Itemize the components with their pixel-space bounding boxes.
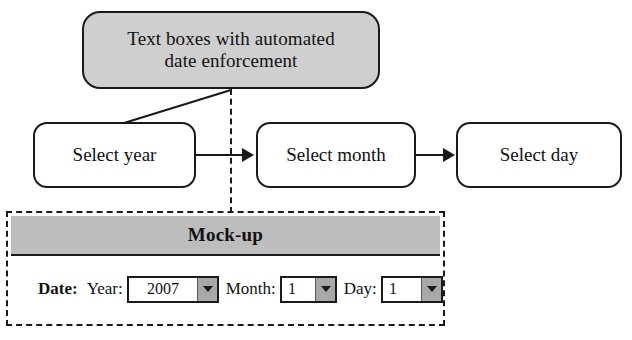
flow-step-select-day[interactable]: Select day	[456, 122, 622, 188]
callout-to-mockup-dashed-line	[230, 89, 232, 213]
day-dropdown-value: 1	[383, 278, 421, 301]
flow-arrow-2-shaft	[416, 154, 446, 156]
arrow-right-icon	[443, 148, 455, 162]
flow-step-label: Select day	[500, 144, 579, 166]
chevron-down-icon	[203, 286, 213, 292]
date-label: Date:	[38, 279, 78, 299]
year-label: Year:	[87, 279, 123, 299]
arrow-right-icon	[242, 148, 254, 162]
chevron-down-icon	[427, 286, 437, 292]
day-dropdown-toggle[interactable]	[421, 278, 441, 301]
mockup-form-row: Date: Year: 2007 Month: 1 Day:	[8, 256, 443, 322]
callout-line-1: Text boxes with automated	[127, 28, 334, 50]
month-dropdown-value: 1	[282, 278, 315, 301]
diagram-canvas: Text boxes with automated date enforceme…	[0, 0, 632, 340]
callout-line-2: date enforcement	[127, 50, 334, 72]
flow-step-select-month[interactable]: Select month	[256, 122, 416, 188]
flow-step-label: Select year	[73, 144, 157, 166]
chevron-down-icon	[321, 286, 331, 292]
mockup-title-bar: Mock-up	[11, 216, 440, 256]
flow-step-label: Select month	[286, 144, 386, 166]
month-dropdown[interactable]: 1	[280, 276, 337, 303]
day-dropdown[interactable]: 1	[381, 276, 443, 303]
mockup-panel: Mock-up Date: Year: 2007 Month: 1	[6, 211, 445, 326]
year-dropdown-toggle[interactable]	[197, 278, 217, 301]
mockup-title: Mock-up	[188, 224, 263, 246]
year-dropdown-value: 2007	[129, 278, 197, 301]
day-label: Day:	[344, 279, 377, 299]
flow-arrow-1-shaft	[196, 154, 244, 156]
year-dropdown[interactable]: 2007	[127, 276, 219, 303]
callout-box: Text boxes with automated date enforceme…	[82, 11, 380, 89]
month-dropdown-toggle[interactable]	[315, 278, 335, 301]
flow-step-select-year[interactable]: Select year	[33, 122, 196, 188]
month-label: Month:	[226, 279, 276, 299]
